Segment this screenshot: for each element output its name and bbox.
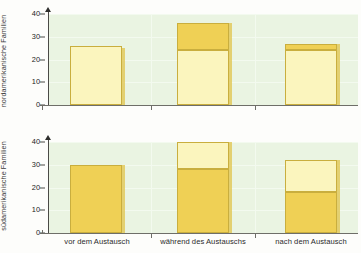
bar-north-nach-dem-austausch	[285, 44, 337, 106]
x-axis-line-top	[40, 105, 358, 106]
plot-area-south-american	[48, 142, 358, 233]
y-tick-label-10: 10	[32, 79, 40, 86]
x-tick-mark-1-top	[151, 106, 152, 110]
y-tick-label-40: 40	[32, 138, 40, 145]
y-axis-title-south-american: südamerikanische Familien	[0, 126, 8, 246]
x-axis-line-bottom	[40, 233, 358, 234]
y-tick-mark-10	[40, 82, 45, 83]
y-axis-arrow-bottom	[45, 135, 51, 140]
y-tick-label-20: 20	[32, 56, 40, 63]
y-tick-mark-10	[40, 210, 45, 211]
y-axis-line-bottom	[48, 140, 49, 233]
bar-segment-light	[285, 50, 337, 105]
bar-north-waehrend-des-austauschs	[177, 23, 229, 105]
x-label-nach-dem-austausch: nach dem Austausch	[256, 237, 361, 246]
bar-north-vor-dem-austausch	[70, 46, 122, 105]
plot-area-north-american	[48, 14, 358, 105]
bar-segment-dark	[285, 192, 337, 233]
bar-segment-dark	[177, 23, 229, 50]
bar-segment-light	[177, 50, 229, 105]
bar-south-vor-dem-austausch	[70, 165, 122, 233]
y-tick-label-10: 10	[32, 207, 40, 214]
gridline-vertical-1	[151, 142, 152, 233]
gridline-40	[48, 14, 358, 15]
x-label-waehrend-des-austauschs: während des Austauschs	[148, 237, 258, 246]
gridline-vertical-2	[255, 142, 256, 233]
y-tick-label-30: 30	[32, 33, 40, 40]
y-tick-label-20: 20	[32, 184, 40, 191]
chart-panel-south-american: südamerikanische Familien	[0, 125, 361, 253]
bar-segment-dark	[70, 165, 122, 233]
bar-south-waehrend-des-austauschs	[177, 142, 229, 233]
y-tick-mark-20	[40, 187, 45, 188]
y-tick-mark-40	[40, 142, 45, 143]
y-axis-title-north-american: nordamerikanische Familien	[0, 1, 8, 121]
x-label-vor-dem-austausch: vor dem Austausch	[42, 237, 152, 246]
gridline-vertical-2	[255, 14, 256, 105]
y-tick-mark-20	[40, 59, 45, 60]
bar-segment-dark	[177, 169, 229, 233]
bar-segment-light	[285, 160, 337, 192]
bar-segment-light	[177, 142, 229, 169]
gridline-vertical-1	[151, 14, 152, 105]
x-tick-mark-2-top	[255, 106, 256, 110]
y-axis-arrow-top	[45, 7, 51, 12]
y-tick-label-40: 40	[32, 10, 40, 17]
y-axis-line-top	[48, 12, 49, 105]
bar-segment-light	[70, 46, 122, 105]
y-tick-label-30: 30	[32, 161, 40, 168]
figure-stacked-bar-charts: nordamerikanische Familien	[0, 0, 361, 253]
chart-panel-north-american: nordamerikanische Familien	[0, 0, 361, 125]
x-tick-mark-origin-top	[42, 106, 43, 110]
y-tick-mark-30	[40, 36, 45, 37]
bar-south-nach-dem-austausch	[285, 160, 337, 233]
y-tick-mark-40	[40, 14, 45, 15]
x-tick-mark-origin-bottom	[42, 230, 43, 234]
y-tick-mark-30	[40, 164, 45, 165]
